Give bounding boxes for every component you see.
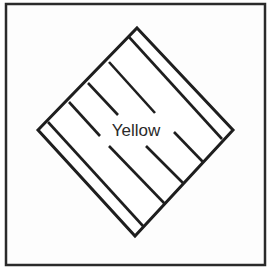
yellow-sign-diagram: Yellow [0,0,270,267]
sign-label: Yellow [112,121,161,140]
